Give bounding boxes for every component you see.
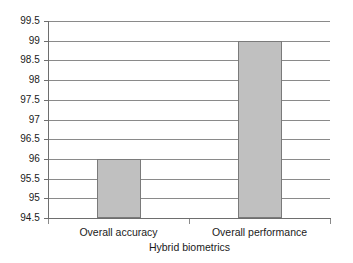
y-axis-tick-label: 95	[0, 193, 40, 203]
y-axis-spine	[48, 21, 49, 219]
plot-area	[48, 21, 330, 218]
gridline	[48, 21, 330, 22]
x-axis-category-label: Overall performance	[180, 226, 340, 238]
bar	[97, 159, 141, 218]
y-axis-tick-label: 98.5	[0, 55, 40, 65]
y-axis-tick-label: 96	[0, 154, 40, 164]
x-axis-title: Hybrid biometrics	[48, 241, 331, 253]
bar	[238, 41, 282, 218]
gridline	[48, 80, 330, 81]
y-axis-tick-label: 98	[0, 75, 40, 85]
y-axis-tick-label: 99	[0, 36, 40, 46]
gridline	[48, 159, 330, 160]
gridline	[48, 41, 330, 42]
x-axis-tick-mark	[189, 219, 190, 224]
y-axis-tick-label: 97	[0, 115, 40, 125]
y-axis-tick-label: 95.5	[0, 174, 40, 184]
gridline	[48, 120, 330, 121]
y-axis-tick-label: 94.5	[0, 213, 40, 223]
x-axis-category-label: Overall accuracy	[39, 226, 199, 238]
y-axis-tick-label: 97.5	[0, 95, 40, 105]
gridline	[48, 60, 330, 61]
gridline	[48, 139, 330, 140]
x-axis-tick-mark	[48, 219, 49, 224]
gridline	[48, 198, 330, 199]
gridline	[48, 100, 330, 101]
y-axis-tick-label: 96.5	[0, 134, 40, 144]
x-axis-tick-mark	[330, 219, 331, 224]
y-axis-tick-label: 99.5	[0, 16, 40, 26]
bar-chart-figure: 99.59998.59897.59796.59695.59594.5 Overa…	[0, 0, 353, 263]
gridline	[48, 179, 330, 180]
